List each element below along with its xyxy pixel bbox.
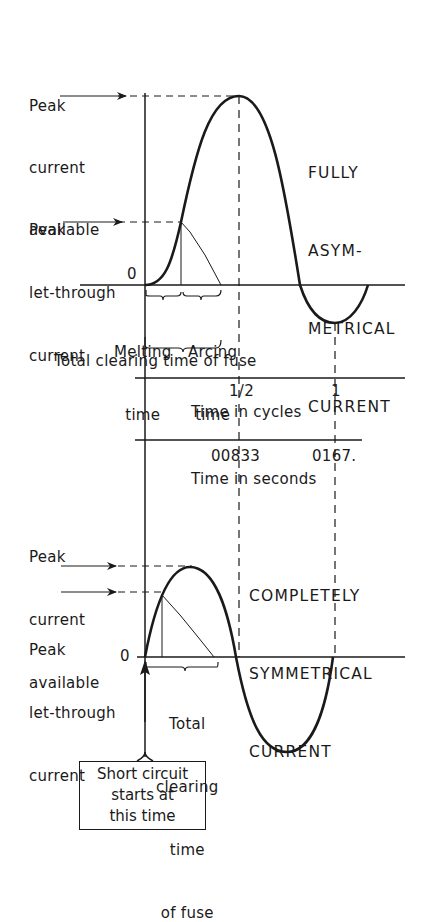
bottom-total-clearing-brace: [146, 662, 218, 671]
title-line: SYMMETRICAL: [249, 661, 373, 687]
label-line: let-through: [29, 283, 116, 304]
title-line: METRICAL: [308, 316, 396, 342]
top-title: FULLY ASYM- METRICAL CURRENT: [308, 108, 396, 446]
total-clearing-time-label: Total clearing time of fuse: [54, 351, 257, 372]
bottom-zero-label: 0: [120, 646, 130, 667]
label-line: Peak: [29, 220, 116, 241]
title-line: COMPLETELY: [249, 583, 373, 609]
cycles-axis-label: Time in cycles: [191, 402, 302, 423]
seconds-tick-half: 00833: [211, 446, 260, 467]
melting-time-brace: [146, 290, 181, 300]
label-line: Peak: [29, 96, 99, 117]
bottom-letthrough-decay: [162, 595, 214, 657]
seconds-tick-one: 0167.: [312, 446, 356, 467]
seconds-axis-label: Time in seconds: [191, 469, 317, 490]
arcing-time-brace: [183, 290, 221, 300]
melting-time-label: Melting time: [114, 300, 172, 447]
label-line: of fuse: [156, 903, 219, 922]
cycles-tick-one: 1: [331, 381, 341, 402]
label-line: Peak: [29, 640, 116, 661]
label-line: time: [156, 840, 219, 861]
title-line: CURRENT: [249, 739, 373, 765]
title-line: ASYM-: [308, 238, 396, 264]
short-circuit-start-box: Short circuit starts at this time: [79, 761, 206, 830]
label-line: current: [29, 158, 99, 179]
top-letthrough-decay: [181, 222, 221, 285]
top-zero-label: 0: [127, 264, 137, 285]
label-line: Peak: [29, 547, 99, 568]
label-line: time: [114, 405, 172, 426]
arcing-time-label: Arcing time: [188, 300, 237, 447]
label-line: Short circuit: [80, 764, 205, 785]
bottom-title: COMPLETELY SYMMETRICAL CURRENT: [249, 531, 373, 791]
cycles-tick-half: 1/2: [229, 381, 254, 402]
label-line: starts at: [80, 785, 205, 806]
label-line: this time: [80, 806, 205, 827]
label-line: Total: [156, 714, 219, 735]
title-line: FULLY: [308, 160, 396, 186]
title-line: CURRENT: [308, 394, 396, 420]
label-line: let-through: [29, 703, 116, 724]
